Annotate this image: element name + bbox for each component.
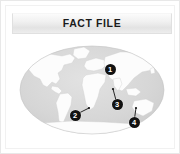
land-new-zealand <box>158 113 162 120</box>
fact-file-card: FACT FILE <box>0 0 180 154</box>
leader-dot-3 <box>112 88 114 90</box>
map-marker-1[interactable]: 1 <box>105 64 116 75</box>
leader-dot-2 <box>88 107 90 109</box>
page-title: FACT FILE <box>63 18 121 29</box>
world-map-graphic <box>12 39 172 142</box>
card-inner-frame: FACT FILE <box>5 5 175 149</box>
map-marker-2[interactable]: 2 <box>70 110 81 121</box>
leader-dot-4 <box>135 107 137 109</box>
caption-row <box>14 137 166 148</box>
world-map-container: 1 2 3 4 <box>12 39 172 142</box>
map-marker-3[interactable]: 3 <box>112 99 123 110</box>
map-marker-4[interactable]: 4 <box>129 117 140 128</box>
land-antarctica <box>16 121 168 137</box>
fact-file-header-bar: FACT FILE <box>12 13 172 34</box>
